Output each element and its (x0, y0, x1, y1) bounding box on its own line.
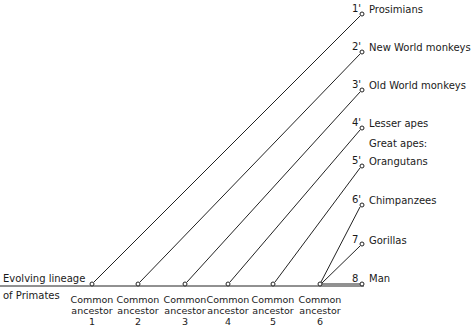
tip-number-7: 7 (352, 234, 358, 245)
branch-prosimians (94, 16, 360, 282)
ancestor-node-5 (271, 282, 275, 286)
tip-number-3: 3' (352, 79, 361, 90)
baseline-label-line2: of Primates (3, 290, 60, 301)
tip-number-5: 5' (352, 155, 361, 166)
tip-label-orangutans: Orangutans (369, 156, 428, 167)
branch-old-world-monkeys (187, 92, 360, 282)
branch-orangutans (275, 168, 360, 282)
tip-number-2: 2' (352, 41, 361, 52)
baseline-label-line1: Evolving lineage (3, 273, 85, 284)
tip-label-man: Man (369, 273, 390, 284)
tip-label-old-world-monkeys: Old World monkeys (369, 80, 466, 91)
tip-number-4: 4' (352, 117, 361, 128)
tip-label-prosimians: Prosimians (369, 4, 423, 15)
ancestor-node-2 (136, 282, 140, 286)
ancestor-label-line2: ancestor (292, 305, 348, 316)
ancestor-node-1 (90, 282, 94, 286)
ancestor-number: 6 (292, 316, 348, 327)
ancestor-node-4 (226, 282, 230, 286)
tip-number-6: 6' (352, 194, 361, 205)
tip-number-8: 8 (352, 273, 358, 284)
tip-label-new-world-monkeys: New World monkeys (369, 42, 471, 53)
tip-number-1: 1' (352, 3, 361, 14)
group-heading-great-apes: Great apes: (369, 138, 427, 149)
ancestor-label-6: Common ancestor 6 (292, 294, 348, 327)
tip-label-lesser-apes: Lesser apes (369, 118, 428, 129)
tip-label-chimpanzees: Chimpanzees (369, 195, 436, 206)
tip-label-gorillas: Gorillas (369, 235, 407, 246)
tip-node-8 (360, 282, 364, 286)
branch-lesser-apes (230, 130, 360, 282)
ancestor-node-6 (318, 282, 322, 286)
ancestor-label-line1: Common (292, 294, 348, 305)
tip-node-7 (360, 242, 364, 246)
ancestor-node-3 (183, 282, 187, 286)
